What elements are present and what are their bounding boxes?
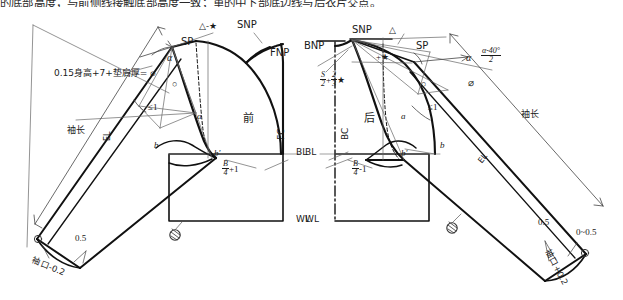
front-label-curve-a: a (197, 112, 202, 121)
back-sleeve-length-dim (450, 34, 603, 206)
back-label-notch-b-prime: b′ (401, 149, 407, 158)
back-label-diameter: ⌀ (468, 78, 474, 88)
back-body-block (335, 154, 429, 221)
back-alpha-equation: α-40° 2 (481, 48, 501, 65)
front-label-cuff-ease: 0.5 (75, 234, 86, 243)
back-label-curve-a: a (401, 112, 406, 121)
front-chest-formula: B 4 +1 (222, 161, 238, 178)
back-sleeve-inner-line (410, 72, 575, 258)
front-label-alpha: α (167, 53, 172, 63)
back-label-bc: BC (341, 128, 350, 140)
front-label-notch-b: b (154, 141, 159, 150)
front-label-cap-formula: 0.15身高+7+垫肩厚= ⌀ (54, 69, 156, 78)
front-hatched-circle-mark (170, 222, 182, 240)
back-hatched-circle-mark (447, 214, 461, 233)
back-alpha-num: α-40° (481, 47, 501, 55)
front-chest-tail: +1 (229, 165, 239, 174)
back-neck-den2: 3 (331, 79, 337, 88)
back-label-shoulder-star: +★ (376, 53, 389, 62)
back-neck-num2: 2 (331, 71, 337, 79)
front-label-circle-mark: ○ (172, 80, 177, 89)
back-chest-tail: -1 (359, 165, 367, 174)
back-neck-den1: 2 (320, 79, 326, 88)
front-raglan-dashed (196, 43, 214, 158)
back-chest-formula: B 4 -1 (352, 161, 366, 178)
front-chest-num: B (222, 160, 229, 168)
front-label-fnp: FNP (270, 48, 289, 58)
back-chest-num: B (352, 160, 359, 168)
back-neck-num1: S (320, 71, 326, 79)
back-label-shoulder-tri: △ (389, 26, 396, 35)
front-label-ease: ≤1 (148, 103, 157, 112)
front-label-snp: SNP (237, 20, 257, 30)
back-label-sp: SP (416, 41, 428, 51)
front-label-shoulder-note: △-★ (199, 22, 217, 31)
back-alpha-arc (414, 53, 468, 64)
back-label-sleeve-length: 袖长 (521, 110, 539, 119)
front-sleeve-length-dim (34, 27, 165, 228)
back-sleeve-outline (404, 62, 586, 281)
back-label-snp: SNP (352, 25, 372, 35)
back-label-circle-mark: ○ (421, 80, 426, 89)
back-label-bl: BL (305, 148, 316, 157)
back-label-cuff-range: 0~0.5 (576, 228, 597, 237)
back-label-bnp: BNP (304, 41, 324, 51)
back-neck-formula: S 2 + 2 3 ★ (320, 72, 345, 89)
front-label-notch-b-prime: b′ (214, 149, 220, 158)
back-label-ease: ≤1 (428, 103, 437, 112)
back-neck-star: ★ (337, 76, 345, 85)
diagram-canvas: 的底部高度，与前侧线接触底部高度一致；重的中下部底边线与后衣片交点。 (0, 0, 623, 300)
front-label-sp: SP (181, 37, 193, 47)
front-sleeve-inner-line (48, 59, 181, 244)
back-chest-den: 4 (352, 168, 359, 177)
front-label-sleeve-length: 袖长 (67, 126, 85, 135)
back-alpha-den: 2 (481, 55, 501, 64)
front-label-panel: 前 (243, 113, 254, 124)
front-label-el: EL (104, 131, 112, 141)
front-sleeve-outline (37, 47, 216, 268)
front-arrowheads (166, 41, 172, 47)
back-label-alpha: α (466, 53, 471, 63)
back-label-notch-b: b (440, 141, 445, 150)
front-chest-den: 4 (222, 168, 229, 177)
back-label-panel: 后 (364, 113, 375, 124)
back-label-wl: WL (305, 215, 319, 224)
front-label-fc: FC (277, 129, 286, 140)
back-label-cuff-ease: 0.5 (538, 218, 549, 227)
